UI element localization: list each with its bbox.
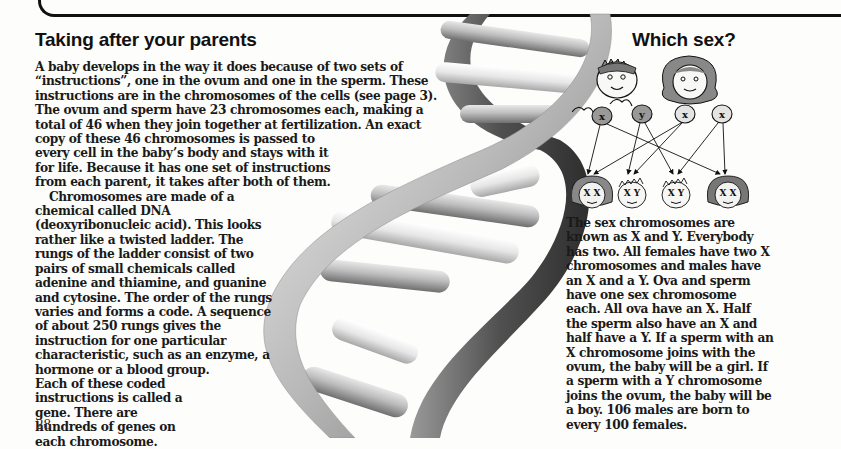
body-line: characteristic, such as an enzyme, a (35, 348, 437, 362)
gamete-x-sperm-icon: x (572, 107, 612, 125)
sidebar-line: a sperm with a Y chromosome (566, 374, 774, 388)
sidebar-line: ovum, the baby will be a girl. If (566, 360, 774, 374)
sidebar-line: The sex chromosomes are (566, 216, 774, 230)
body-line: Each of these coded (35, 377, 437, 391)
body-line: copy of these 46 chromosomes is passed t… (35, 132, 437, 146)
body-line: “instructions”, one in the ovum and one … (35, 74, 437, 88)
body-line: each chromosome. (35, 435, 437, 449)
sidebar-line: joins the ovum, the baby will be (566, 389, 774, 403)
body-line: Chromosomes are made of a (35, 190, 437, 204)
child-male-xy-icon: X Y (618, 178, 646, 208)
sidebar-line: has two. All females have two X (566, 245, 774, 259)
svg-text:X X: X X (583, 188, 600, 198)
article-heading: Taking after your parents (35, 29, 257, 51)
svg-text:x: x (719, 109, 726, 120)
inheritance-arrows (588, 123, 725, 174)
sidebar-line: every 100 females. (566, 418, 774, 432)
child-female-xx-icon: X X (707, 176, 748, 208)
body-line: rungs of the ladder consist of two (35, 247, 437, 261)
sidebar-heading: Which sex? (632, 29, 736, 51)
body-line: for life. Because it has one set of inst… (35, 161, 437, 175)
body-line: instructions are in the chromosomes of t… (35, 89, 437, 103)
sidebar-line: a boy. 106 males are born to (566, 403, 774, 417)
body-line: pairs of small chemicals called (35, 262, 437, 276)
sidebar-line: known as X and Y. Everybody (566, 230, 774, 244)
body-line: A baby develops in the way it does becau… (35, 60, 437, 74)
sidebar-line: each. All ova have an X. Half (566, 302, 774, 316)
gamete-x-ovum-icon: x (712, 105, 732, 123)
body-line: (deoxyribonucleic acid). This looks (35, 218, 437, 232)
body-line: gene. There are (35, 406, 437, 420)
body-line: of about 250 rungs gives the (35, 319, 437, 333)
body-line: every cell in the baby’s body and stays … (35, 146, 437, 160)
female-parent-face-icon (662, 56, 717, 104)
body-line: from each parent, it takes after both of… (35, 175, 437, 189)
sidebar-line: half have a Y. If a sperm with an (566, 331, 774, 345)
sidebar-line: have one sex chromosome (566, 288, 774, 302)
svg-text:X Y: X Y (668, 188, 685, 198)
sidebar-line: X chromosome joins with the (566, 346, 774, 360)
svg-text:y: y (638, 109, 646, 120)
male-parent-face-icon (597, 59, 637, 98)
body-line: total of 46 when they join together at f… (35, 118, 437, 132)
gamete-x-ovum-icon: x (675, 105, 695, 123)
sidebar-line: an X and a Y. Ova and sperm (566, 274, 774, 288)
sidebar-body: The sex chromosomes are known as X and Y… (566, 216, 774, 432)
sex-determination-diagram: x y x x X X X Y X Y (572, 52, 772, 212)
child-female-xx-icon: X X (572, 176, 613, 208)
body-line: rather like a twisted ladder. The (35, 233, 437, 247)
child-male-xy-icon: X Y (662, 178, 690, 208)
body-line: and cytosine. The order of the rungs (35, 291, 437, 305)
svg-text:x: x (682, 109, 689, 120)
body-line: The ovum and sperm have 23 chromosomes e… (35, 103, 437, 117)
body-line: instruction for one particular (35, 334, 437, 348)
body-line: hormone or a blood group. (35, 363, 437, 377)
body-line: instructions is called a (35, 391, 437, 405)
body-line: hundreds of genes on (35, 420, 437, 434)
article-body: A baby develops in the way it does becau… (35, 60, 437, 449)
body-line: varies and forms a code. A sequence (35, 305, 437, 319)
gamete-y-sperm-icon: y (610, 99, 652, 123)
page-number: 28 (36, 416, 51, 433)
svg-text:x: x (599, 111, 606, 122)
svg-text:X Y: X Y (624, 188, 641, 198)
sidebar-line: the sperm also have an X and (566, 317, 774, 331)
svg-text:X X: X X (719, 188, 736, 198)
body-line: adenine and thiamine, and guanine (35, 276, 437, 290)
body-line: chemical called DNA (35, 204, 437, 218)
sidebar-line: chromosomes and males have (566, 259, 774, 273)
